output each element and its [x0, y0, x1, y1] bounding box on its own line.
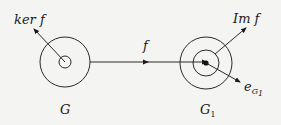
identity-arrow	[206, 63, 240, 82]
group-g1-label: G1	[200, 102, 215, 119]
group-g1: Im f eG1 G1	[180, 11, 263, 119]
homomorphism-diagram: ker f G f Im f eG1 G1	[0, 0, 281, 125]
kernel-arrow	[34, 29, 65, 62]
image-label: Im f	[232, 11, 262, 26]
map-f: f	[90, 38, 207, 62]
map-label: f	[142, 38, 150, 53]
group-g: ker f G	[14, 12, 90, 117]
kernel-label: ker f	[14, 12, 47, 27]
identity-label: eG1	[244, 79, 263, 98]
group-g-label: G	[60, 102, 70, 117]
